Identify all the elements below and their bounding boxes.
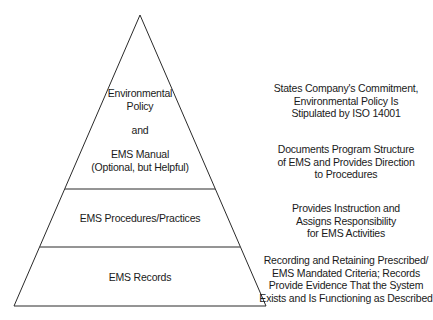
label-line: EMS Procedures/Practices — [80, 212, 201, 225]
tier-records-description: Recording and Retaining Prescribed/ EMS … — [259, 254, 432, 304]
label-line: Policy — [91, 100, 189, 113]
tier-policy-description: States Company's Commitment, Environment… — [274, 82, 419, 120]
label-line: Environmental — [91, 87, 189, 100]
label-line: EMS Records — [109, 271, 172, 284]
label-line: EMS Manual — [91, 148, 189, 161]
tier-policy-manual-label: Environmental Policy and EMS Manual (Opt… — [91, 87, 189, 174]
tier-records-label: EMS Records — [109, 271, 172, 284]
label-line: and — [91, 124, 189, 137]
tier-manual-description: Documents Program Structure of EMS and P… — [277, 143, 414, 181]
tier-procedures-description: Provides Instruction and Assigns Respons… — [292, 202, 400, 240]
label-line: (Optional, but Helpful) — [91, 161, 189, 174]
tier-procedures-label: EMS Procedures/Practices — [80, 212, 201, 225]
